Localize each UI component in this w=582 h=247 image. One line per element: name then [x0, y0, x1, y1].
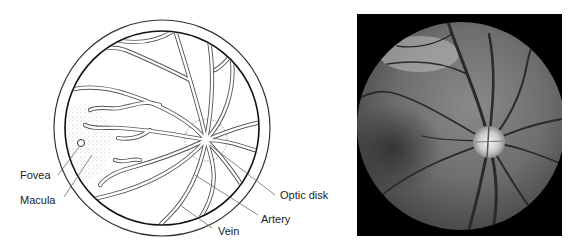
- label-artery: Artery: [261, 213, 290, 225]
- label-vein: Vein: [218, 225, 239, 237]
- fundus-photo-svg: [357, 14, 562, 236]
- fundus-content: [52, 0, 262, 247]
- fundus-photograph: [357, 14, 562, 236]
- retina-diagram-svg: [0, 0, 340, 247]
- retina-diagram: Fovea Macula Optic disk Artery Vein: [0, 0, 340, 247]
- fovea-spot: [78, 140, 85, 147]
- optic-disk-leader: [210, 145, 275, 195]
- label-macula: Macula: [20, 194, 55, 206]
- label-optic-disk: Optic disk: [280, 189, 328, 201]
- label-fovea: Fovea: [20, 169, 51, 181]
